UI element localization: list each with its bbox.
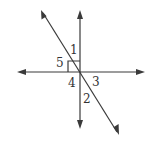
angle-label-1: 1 — [70, 43, 78, 57]
angle-label-5: 5 — [56, 56, 64, 70]
intersecting-lines-diagram: 1 2 3 4 5 — [0, 0, 154, 141]
angle-label-3: 3 — [92, 75, 100, 89]
angle-label-4: 4 — [68, 76, 76, 90]
angle-label-2: 2 — [83, 92, 91, 106]
vertical-bottom-arrowhead — [77, 120, 83, 129]
horizontal-right-arrowhead — [136, 69, 145, 75]
vertical-top-arrowhead — [77, 10, 83, 19]
horizontal-left-arrowhead — [17, 69, 26, 75]
diagonal-bottom-arrowhead — [114, 124, 120, 135]
